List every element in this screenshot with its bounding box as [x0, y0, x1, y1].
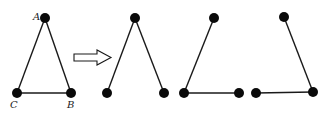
path-1-top-vertex: [130, 13, 140, 23]
vertex-c: [12, 88, 22, 98]
path-1-left-edge: [107, 18, 135, 93]
path-2-left-edge: [184, 18, 214, 93]
vertex-b: [66, 88, 76, 98]
label-b: B: [66, 99, 74, 110]
path-1-right-edge: [135, 18, 164, 93]
vertex-a: [40, 13, 50, 23]
path-2-left-vertex: [179, 88, 189, 98]
path-3-bottom-and-right: [251, 12, 318, 98]
path-3-bottom-edge: [256, 92, 313, 93]
path-3-right-edge: [284, 17, 313, 92]
label-c: C: [10, 99, 18, 110]
path-3-top-vertex: [279, 12, 289, 22]
path-3-right-vertex: [308, 87, 318, 97]
triangle-decomposition-diagram: A C B: [0, 0, 327, 115]
path-1-inverted-v: [102, 13, 169, 98]
path-2-left-and-bottom: [179, 13, 244, 98]
path-1-left-vertex: [102, 88, 112, 98]
path-3-left-vertex: [251, 88, 261, 98]
hollow-right-arrow-icon: [74, 50, 111, 65]
path-1-right-vertex: [159, 88, 169, 98]
triangle-abc: A C B: [10, 11, 76, 110]
label-a: A: [32, 11, 40, 22]
edge-ab: [45, 18, 71, 93]
path-2-right-vertex: [234, 88, 244, 98]
edge-ac: [17, 18, 45, 93]
path-2-top-vertex: [209, 13, 219, 23]
